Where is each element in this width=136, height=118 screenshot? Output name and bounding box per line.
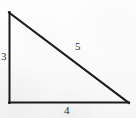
horizontal-leg-label: 4 — [64, 105, 70, 116]
vertical-leg-label: 3 — [1, 51, 7, 62]
right-triangle-drawing — [0, 0, 136, 118]
hypotenuse-line — [9, 13, 129, 104]
hypotenuse-label: 5 — [75, 41, 81, 52]
triangle-figure: 3 5 4 — [0, 0, 136, 118]
